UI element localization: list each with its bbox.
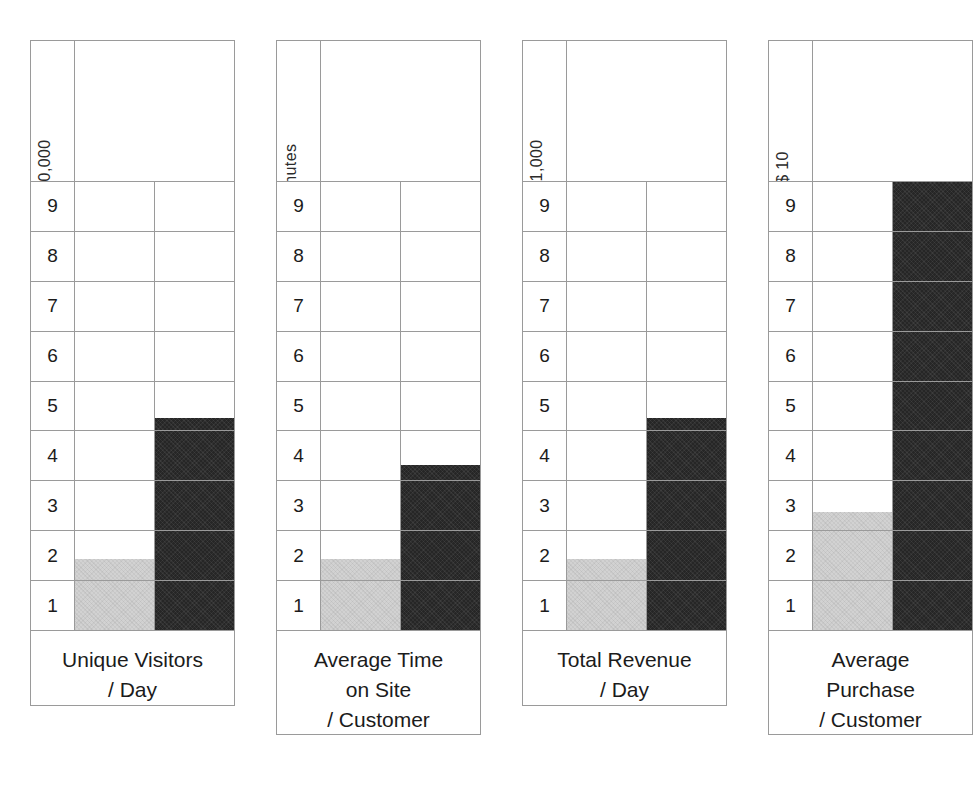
grid-cell (813, 232, 893, 281)
scale-row: 8 (277, 232, 480, 282)
scale-row: 6 (769, 332, 972, 382)
grid-cell (567, 332, 647, 381)
unit-band-blank (567, 41, 726, 181)
grid-cell (401, 282, 480, 331)
grid-cell (813, 581, 893, 630)
scale-row: 3 (769, 481, 972, 531)
chart-caption: Unique Visitors/ Day (31, 630, 234, 705)
y-axis-tick-label: 8 (769, 232, 813, 281)
chart-panel: X$ 10987654321AveragePurchase/ Customer (768, 40, 973, 735)
y-axis-tick-label: 4 (769, 431, 813, 480)
grid-cell (401, 481, 480, 530)
chart-caption-line: / Customer (327, 705, 430, 735)
grid-cell (321, 232, 401, 281)
grid-cell (155, 332, 234, 381)
y-axis-tick-label: 6 (277, 332, 321, 381)
grid-cell (401, 531, 480, 580)
unit-band: X$ 10 (769, 41, 972, 182)
grid-cell (567, 531, 647, 580)
grid-cell (321, 581, 401, 630)
scale-row: 6 (523, 332, 726, 382)
grid-cell (567, 431, 647, 480)
y-axis-tick-label: 5 (31, 382, 75, 431)
grid-cell (893, 481, 972, 530)
y-axis-unit-label: Minutes (283, 144, 299, 181)
grid-cell (647, 531, 726, 580)
y-axis-unit-cell: X 10,000 (31, 41, 75, 181)
scale-row: 9 (31, 182, 234, 232)
scale-rows: 987654321 (31, 182, 234, 630)
grid-cell (813, 332, 893, 381)
chart-caption-line: / Day (600, 675, 649, 705)
grid-cell (75, 282, 155, 331)
unit-band-blank (321, 41, 480, 181)
grid-cell (401, 382, 480, 431)
grid-cell (321, 431, 401, 480)
y-axis-tick-label: 2 (523, 531, 567, 580)
grid-cell (75, 531, 155, 580)
grid-cell (567, 382, 647, 431)
unit-band: Minutes (277, 41, 480, 182)
grid-cell (893, 581, 972, 630)
grid-cell (647, 282, 726, 331)
grid-cell (321, 481, 401, 530)
charts-row: X 10,000987654321Unique Visitors/ DayMin… (0, 0, 980, 800)
grid-cell (401, 182, 480, 231)
grid-cell (321, 531, 401, 580)
y-axis-unit-label: X 10,000 (37, 139, 53, 181)
grid-cell (75, 232, 155, 281)
y-axis-tick-label: 4 (277, 431, 321, 480)
y-axis-tick-label: 1 (277, 581, 321, 630)
scale-row: 1 (523, 581, 726, 630)
grid-cell (647, 182, 726, 231)
y-axis-tick-label: 8 (523, 232, 567, 281)
grid-cell (567, 481, 647, 530)
grid-cell (155, 282, 234, 331)
scale-rows: 987654321 (769, 182, 972, 630)
scale-row: 7 (769, 282, 972, 332)
y-axis-tick-label: 6 (769, 332, 813, 381)
chart-caption-line: on Site (346, 675, 411, 705)
grid-cell (647, 481, 726, 530)
y-axis-unit-label: X $1,000 (529, 139, 545, 181)
grid-cell (567, 282, 647, 331)
grid-cell (155, 481, 234, 530)
grid-cell (813, 182, 893, 231)
grid-cell (75, 332, 155, 381)
grid-cell (567, 232, 647, 281)
scale-row: 9 (769, 182, 972, 232)
scale-row: 1 (277, 581, 480, 630)
scale-row: 3 (277, 481, 480, 531)
grid-cell (813, 531, 893, 580)
scale-row: 6 (31, 332, 234, 382)
scale-row: 8 (769, 232, 972, 282)
grid-cell (647, 581, 726, 630)
chart-caption-line: Purchase (826, 675, 915, 705)
scale-row: 5 (523, 382, 726, 432)
scale-row: 5 (31, 382, 234, 432)
scale-row: 4 (769, 431, 972, 481)
y-axis-tick-label: 6 (31, 332, 75, 381)
y-axis-unit-cell: X $1,000 (523, 41, 567, 181)
grid-cell (401, 332, 480, 381)
y-axis-tick-label: 7 (277, 282, 321, 331)
y-axis-tick-label: 9 (31, 182, 75, 231)
grid-cell (321, 382, 401, 431)
y-axis-tick-label: 2 (277, 531, 321, 580)
scale-row: 7 (31, 282, 234, 332)
scale-row: 3 (31, 481, 234, 531)
grid-cell (321, 332, 401, 381)
grid-cell (893, 332, 972, 381)
chart-caption-line: Unique Visitors (62, 645, 203, 675)
grid-cell (155, 531, 234, 580)
grid-cell (155, 232, 234, 281)
y-axis-unit-label: X$ 10 (775, 151, 791, 181)
chart-caption-line: / Customer (819, 705, 922, 735)
grid-cell (321, 282, 401, 331)
y-axis-tick-label: 5 (277, 382, 321, 431)
chart-caption: AveragePurchase/ Customer (769, 630, 972, 734)
grid-cell (155, 581, 234, 630)
y-axis-tick-label: 3 (31, 481, 75, 530)
plot-area: Minutes987654321 (277, 41, 480, 630)
y-axis-tick-label: 9 (769, 182, 813, 231)
